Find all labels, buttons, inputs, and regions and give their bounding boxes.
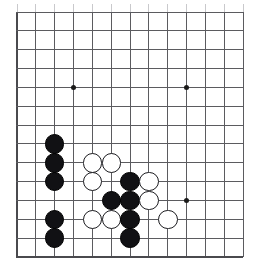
black-stone[interactable] <box>45 134 65 154</box>
white-stone[interactable] <box>102 153 122 173</box>
white-stone[interactable] <box>83 172 103 192</box>
grid-line-horizontal <box>16 87 243 88</box>
star-point <box>71 85 76 90</box>
black-stone[interactable] <box>120 228 140 248</box>
black-stone[interactable] <box>45 228 65 248</box>
black-stone[interactable] <box>45 210 65 230</box>
grid-line-horizontal <box>16 49 243 50</box>
grid-line-horizontal <box>16 30 243 31</box>
black-stone[interactable] <box>120 210 140 230</box>
black-stone[interactable] <box>120 191 140 211</box>
white-stone[interactable] <box>139 172 159 192</box>
star-point <box>184 85 189 90</box>
white-stone[interactable] <box>158 210 178 230</box>
grid-line-horizontal <box>16 106 243 107</box>
grid-line-horizontal <box>16 68 243 69</box>
grid-line-horizontal <box>16 12 243 13</box>
white-stone[interactable] <box>83 153 103 173</box>
black-stone[interactable] <box>45 172 65 192</box>
go-board-diagram <box>0 0 269 278</box>
board-edge-bottom <box>16 256 243 258</box>
white-stone[interactable] <box>83 210 103 230</box>
white-stone[interactable] <box>139 191 159 211</box>
grid-line-horizontal <box>16 125 243 126</box>
star-point <box>184 198 189 203</box>
go-board-grid[interactable] <box>0 0 269 278</box>
black-stone[interactable] <box>102 191 122 211</box>
black-stone[interactable] <box>45 153 65 173</box>
white-stone[interactable] <box>102 210 122 230</box>
black-stone[interactable] <box>120 172 140 192</box>
